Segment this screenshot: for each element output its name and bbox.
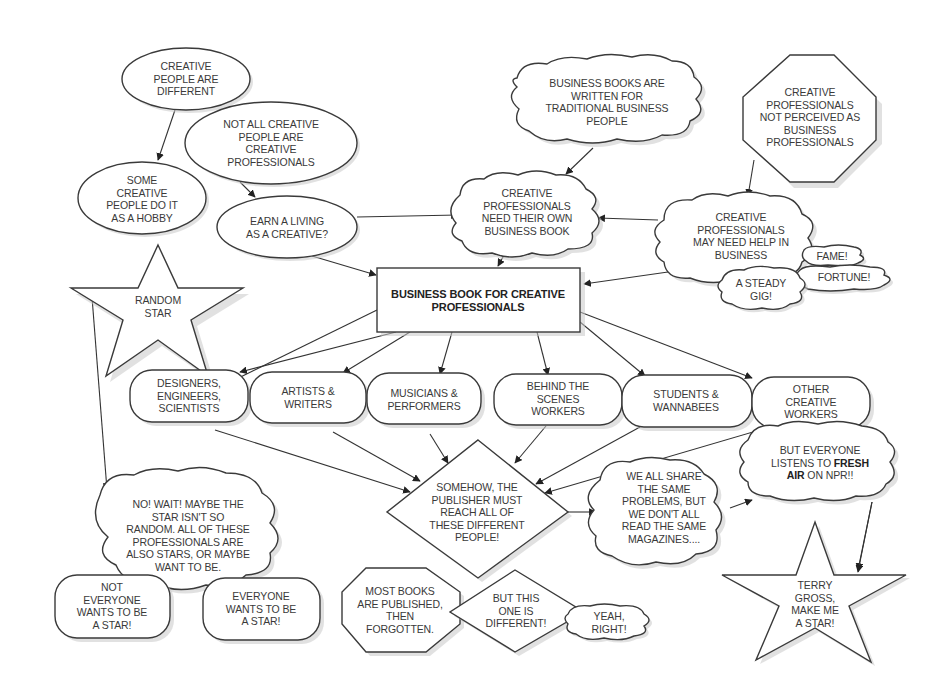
label-random-star: RANDOM STAR (135, 294, 181, 319)
edge-traditional-to-needbook (566, 148, 593, 174)
label-musicians: MUSICIANS & PERFORMERS (387, 387, 460, 412)
label-artists: ARTISTS & WRITERS (281, 385, 334, 410)
label-hobby: SOME CREATIVE PEOPLE DO IT AS A HOBBY (106, 174, 178, 224)
edge-main-to-musicians (440, 332, 452, 374)
label-not-all-creative: NOT ALL CREATIVE PEOPLE ARE CREATIVE PRO… (223, 118, 319, 168)
label-earn-living: EARN A LIVING AS A CREATIVE? (246, 215, 328, 240)
label-books-traditional: BUSINESS BOOKS ARE WRITTEN FOR TRADITION… (545, 77, 668, 127)
label-not-everyone-star: NOT EVERYONE WANTS TO BE A STAR! (77, 581, 147, 631)
edge-main-to-artists (343, 332, 410, 373)
edge-earn-to-needbook (357, 215, 458, 217)
edge-main-to-other (580, 312, 752, 378)
edge-earn-to-mainbook (312, 256, 376, 275)
edge-different-to-hobby (158, 110, 175, 160)
label-most-books: MOST BOOKS ARE PUBLISHED, THEN FORGOTTEN… (357, 585, 443, 635)
label-creative-people-different: CREATIVE PEOPLE ARE DIFFERENT (154, 60, 219, 98)
label-steady-gig: A STEADY GIG! (736, 277, 787, 302)
label-yeah-right: YEAH, RIGHT! (592, 610, 627, 635)
label-fresh-air: BUT EVERYONE LISTENS TO FRESH AIR ON NPR… (771, 444, 869, 482)
edge-main-to-students (580, 322, 645, 376)
label-share-problems: WE ALL SHARE THE SAME PROBLEMS, BUT WE D… (622, 470, 706, 545)
fresh-air-text-2: ON NPR!! (805, 469, 854, 481)
label-publisher-reach: SOMEHOW, THE PUBLISHER MUST REACH ALL OF… (429, 481, 524, 544)
label-this-one-different: BUT THIS ONE IS DIFFERENT! (486, 592, 547, 630)
label-behind-scenes: BEHIND THE SCENES WORKERS (527, 380, 589, 418)
label-designers: DESIGNERS, ENGINEERS, SCIENTISTS (157, 377, 221, 415)
edge-notperceived-to-needhelp (748, 160, 754, 196)
label-need-own-book: CREATIVE PROFESSIONALS NEED THEIR OWN BU… (482, 187, 573, 237)
label-everyone-star: EVERYONE WANTS TO BE A STAR! (226, 590, 296, 628)
label-students: STUDENTS & WANNABEES (653, 388, 719, 413)
edge-needhelp-to-mainbook (584, 272, 668, 284)
edge-artists-to-publisher (333, 432, 420, 481)
edge-share-to-freshair (730, 500, 752, 508)
label-need-help: CREATIVE PROFESSIONALS MAY NEED HELP IN … (693, 211, 789, 261)
edge-main-to-behind (537, 332, 548, 375)
edge-musicians-to-publisher (430, 434, 448, 463)
label-main-book: BUSINESS BOOK FOR CREATIVE PROFESSIONALS (391, 288, 565, 313)
label-other-creative: OTHER CREATIVE WORKERS (784, 383, 838, 421)
edge-behind-to-publisher (515, 426, 546, 463)
label-fortune: FORTUNE! (818, 271, 871, 284)
label-not-perceived: CREATIVE PROFESSIONALS NOT PERCEIVED AS … (760, 86, 860, 149)
edge-star-to-nowait (92, 297, 107, 490)
label-terry-gross: TERRY GROSS, MAKE ME A STAR! (791, 579, 839, 629)
label-fame: FAME! (816, 250, 847, 263)
edge-needhelp-to-needbook (598, 218, 658, 220)
edge-freshair-to-terry-top (858, 502, 872, 572)
label-no-wait: NO! WAIT! MAYBE THE STAR ISN'T SO RANDOM… (126, 498, 250, 573)
